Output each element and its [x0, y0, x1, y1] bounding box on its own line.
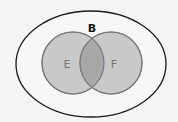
label-f: F [111, 58, 117, 71]
venn-diagram: B E F [0, 0, 178, 122]
label-b: B [88, 22, 96, 35]
label-e: E [64, 58, 71, 71]
